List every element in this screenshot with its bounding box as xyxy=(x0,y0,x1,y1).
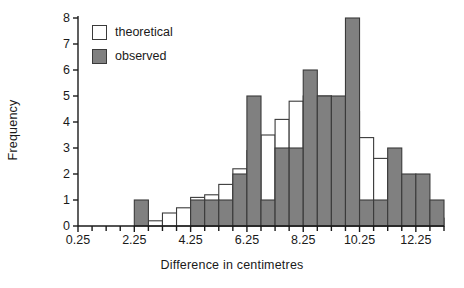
bar-theoretical-8.75-9.25 xyxy=(317,96,331,226)
bar-observed-9.25-9.75 xyxy=(331,96,345,226)
chart-legend: theoretical observed xyxy=(92,22,173,70)
bar-observed-6.25-6.75 xyxy=(247,96,261,226)
histogram-chart: Frequency 012345678 0.252.254.256.258.25… xyxy=(0,0,464,288)
y-tick-label-8: 8 xyxy=(52,11,70,25)
bar-observed-4.25-4.75 xyxy=(191,200,205,226)
y-axis-ticks xyxy=(73,18,78,226)
bar-theoretical-4.25-4.75 xyxy=(191,197,205,226)
bar-observed-5.75-6.25 xyxy=(233,174,247,226)
bar-theoretical-7.25-7.75 xyxy=(275,119,289,226)
x-axis-label: Difference in centimetres xyxy=(0,258,464,272)
bar-theoretical-12.25-12.75 xyxy=(416,210,430,226)
bar-observed-7.75-8.25 xyxy=(289,148,303,226)
x-tick-label-6.25: 6.25 xyxy=(235,233,259,247)
bar-observed-12.75-13.25 xyxy=(430,200,444,226)
bar-theoretical-6.75-7.25 xyxy=(261,135,275,226)
legend-item-observed: observed xyxy=(92,46,173,67)
x-axis-ticks xyxy=(78,226,444,232)
series-observed xyxy=(134,18,444,226)
bar-theoretical-10.75-11.25 xyxy=(374,158,388,226)
bar-theoretical-6.25-6.75 xyxy=(247,151,261,226)
bar-observed-4.75-5.25 xyxy=(205,200,219,226)
bar-observed-12.25-12.75 xyxy=(416,174,430,226)
bar-theoretical-10.25-10.75 xyxy=(360,138,374,226)
bar-theoretical-4.75-5.25 xyxy=(205,195,219,226)
bar-observed-5.25-5.75 xyxy=(219,200,233,226)
y-tick-label-4: 4 xyxy=(52,115,70,129)
legend-label-theoretical: theoretical xyxy=(115,26,173,39)
legend-swatch-observed xyxy=(92,49,107,64)
x-tick-label-12.25: 12.25 xyxy=(400,233,431,247)
y-tick-label-3: 3 xyxy=(52,141,70,155)
y-tick-label-5: 5 xyxy=(52,89,70,103)
bar-observed-10.25-10.75 xyxy=(360,200,374,226)
x-axis-tick-labels: 0.252.254.256.258.2510.2512.25 xyxy=(0,233,464,251)
bar-observed-8.25-8.75 xyxy=(303,70,317,226)
y-tick-label-1: 1 xyxy=(52,193,70,207)
x-tick-label-0.25: 0.25 xyxy=(66,233,90,247)
series-theoretical xyxy=(148,96,444,226)
bar-observed-10.75-11.25 xyxy=(374,200,388,226)
x-tick-label-10.25: 10.25 xyxy=(344,233,375,247)
y-axis-label-text: Frequency xyxy=(6,100,20,161)
bar-theoretical-3.75-4.25 xyxy=(177,208,191,226)
bar-theoretical-11.25-11.75 xyxy=(388,182,402,226)
bar-observed-11.75-12.25 xyxy=(402,174,416,226)
bar-theoretical-2.75-3.25 xyxy=(148,221,162,226)
bar-theoretical-11.75-12.25 xyxy=(402,197,416,226)
x-tick-label-8.25: 8.25 xyxy=(291,233,315,247)
bar-theoretical-9.75-10.25 xyxy=(345,112,359,226)
bar-observed-9.75-10.25 xyxy=(345,18,359,226)
bar-observed-2.25-2.75 xyxy=(134,200,148,226)
bar-theoretical-9.25-9.75 xyxy=(331,101,345,226)
legend-swatch-theoretical xyxy=(92,25,107,40)
bar-observed-11.25-11.75 xyxy=(388,148,402,226)
y-tick-label-0: 0 xyxy=(52,219,70,233)
y-tick-label-2: 2 xyxy=(52,167,70,181)
bar-theoretical-7.75-8.25 xyxy=(289,101,303,226)
bar-theoretical-5.25-5.75 xyxy=(219,184,233,226)
x-tick-label-4.25: 4.25 xyxy=(178,233,202,247)
x-tick-label-2.25: 2.25 xyxy=(122,233,146,247)
bar-theoretical-3.25-3.75 xyxy=(162,213,176,226)
legend-label-observed: observed xyxy=(115,50,166,63)
legend-item-theoretical: theoretical xyxy=(92,22,173,43)
bar-theoretical-8.25-8.75 xyxy=(303,96,317,226)
y-tick-label-7: 7 xyxy=(52,37,70,51)
bar-observed-8.75-9.25 xyxy=(317,96,331,226)
bar-theoretical-5.75-6.25 xyxy=(233,169,247,226)
bar-observed-7.25-7.75 xyxy=(275,148,289,226)
bar-observed-6.75-7.25 xyxy=(261,200,275,226)
bar-theoretical-12.75-13.25 xyxy=(430,218,444,226)
x-axis-label-text: Difference in centimetres xyxy=(160,258,303,272)
y-tick-label-6: 6 xyxy=(52,63,70,77)
